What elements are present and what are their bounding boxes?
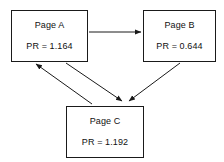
node-page-b-title: Page B [164,20,194,31]
node-page-b-metric: PR = 0.644 [156,41,202,52]
node-page-a-title: Page A [35,20,65,31]
node-page-c[interactable]: Page C PR = 1.192 [66,106,144,158]
diagram-canvas: Page A PR = 1.164 Page B PR = 0.644 Page… [0,0,224,162]
node-page-a[interactable]: Page A PR = 1.164 [11,10,88,62]
node-page-a-metric: PR = 1.164 [26,41,72,52]
edge-c-to-a [36,64,92,104]
node-page-c-title: Page C [90,116,121,127]
edge-a-to-c [66,63,122,101]
edge-b-to-c [129,63,180,101]
node-page-c-metric: PR = 1.192 [82,137,128,148]
node-page-b[interactable]: Page B PR = 0.644 [143,10,216,62]
